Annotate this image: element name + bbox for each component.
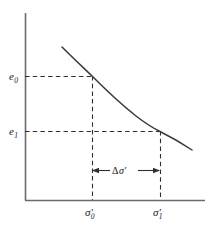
delta-sigma-label-delta: Δ xyxy=(112,165,119,176)
compression-curve xyxy=(62,47,192,150)
delta-sigma-label-sigma: σ′ xyxy=(119,165,127,176)
x-tick-label-sigma0-subscript: 0 xyxy=(91,212,95,221)
y-tick-label-e1: e1 xyxy=(9,125,18,140)
delta-sigma-arrowhead-right xyxy=(153,168,160,173)
y-tick-label-e0-base: e xyxy=(9,70,14,82)
delta-sigma-label: Δσ′ xyxy=(112,165,127,176)
delta-sigma-arrowhead-left xyxy=(92,168,99,173)
x-tick-label-sigma1-subscript: 1 xyxy=(159,212,163,221)
consolidation-curve-figure: e0 e1 σ′0 σ′1 Δσ′ xyxy=(0,0,212,230)
guide-lines-group xyxy=(25,76,161,200)
y-tick-labels-group: e0 e1 xyxy=(9,70,18,140)
x-tick-labels-group: σ′0 σ′1 xyxy=(85,206,162,221)
y-tick-label-e1-subscript: 1 xyxy=(14,131,18,140)
x-tick-label-sigma1: σ′1 xyxy=(153,206,162,221)
y-tick-label-e0-subscript: 0 xyxy=(14,76,18,85)
plot-area: e0 e1 σ′0 σ′1 Δσ′ xyxy=(0,0,212,230)
y-tick-label-e0: e0 xyxy=(9,70,18,85)
x-tick-label-sigma0: σ′0 xyxy=(85,206,95,221)
y-tick-label-e1-base: e xyxy=(9,125,14,137)
